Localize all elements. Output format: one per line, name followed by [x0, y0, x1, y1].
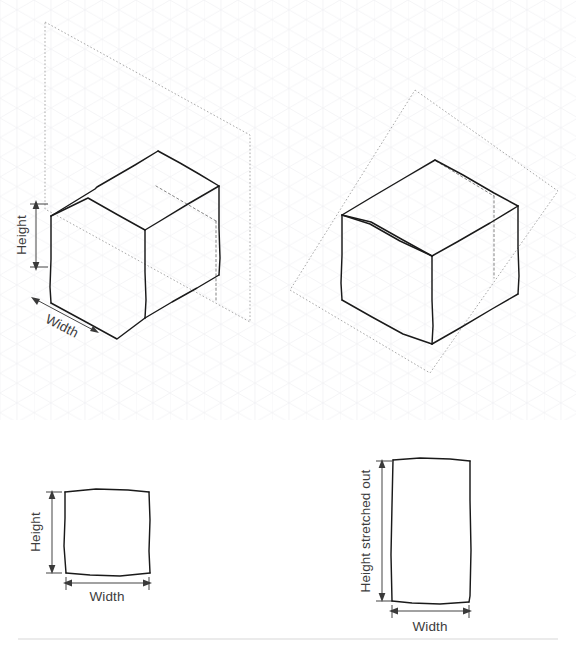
- height-label-stretched: Height stretched out: [358, 469, 373, 592]
- panel-square-face: Height Width: [28, 489, 152, 604]
- panel-stretched-face: Height stretched out Width: [358, 458, 472, 634]
- dimension-width-stretched: Width: [389, 605, 472, 634]
- dimension-width-square: Width: [63, 577, 152, 604]
- square-face-outline: [64, 489, 150, 576]
- diagram-root: Height Width: [0, 0, 576, 647]
- height-label-left: Height: [14, 215, 29, 255]
- background-isometric-grid: [0, 0, 576, 420]
- diagram-canvas: Height Width: [0, 0, 576, 647]
- dimension-height-square: Height: [28, 490, 62, 574]
- width-label-square: Width: [89, 589, 124, 604]
- dimension-height-stretched: Height stretched out: [358, 459, 392, 602]
- stretched-face-outline: [391, 458, 471, 604]
- width-label-stretched: Width: [412, 619, 447, 634]
- height-label-square: Height: [28, 512, 43, 552]
